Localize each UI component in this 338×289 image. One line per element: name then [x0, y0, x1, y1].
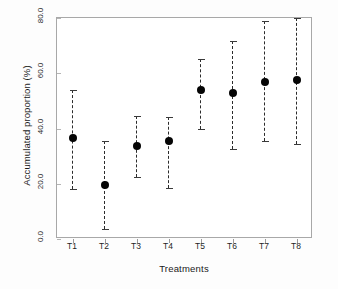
plot-inner: [57, 18, 311, 237]
y-axis-tick: [57, 184, 61, 185]
error-bar-cap-lower: [102, 229, 109, 230]
error-bar-cap-lower: [70, 189, 77, 190]
y-axis-tick-label: 40.0: [36, 109, 45, 143]
x-axis-tick-label: T1: [57, 241, 87, 251]
y-axis-tick: [57, 239, 61, 240]
x-axis-tick-label: T3: [121, 241, 151, 251]
data-point-marker: [165, 137, 173, 145]
data-point-marker: [133, 142, 141, 150]
error-bar-cap-upper: [294, 18, 301, 19]
error-bar-cap-lower: [198, 129, 205, 130]
data-point-marker: [197, 86, 205, 94]
x-axis-tick-label: T6: [217, 241, 247, 251]
x-axis-title: Treatments: [56, 263, 312, 274]
error-bar-cap-upper: [166, 117, 173, 118]
error-bar-cap-lower: [166, 188, 173, 189]
error-bar-cap-upper: [102, 141, 109, 142]
error-bar: [168, 117, 170, 187]
data-point-marker: [293, 76, 301, 84]
x-axis-tick-label: T8: [281, 241, 311, 251]
y-axis-tick-label: 0.0: [36, 220, 45, 254]
data-point-marker: [261, 78, 269, 86]
data-point-marker: [229, 89, 237, 97]
y-axis-tick-label: 60.0: [36, 54, 45, 88]
x-axis-tick-label: T7: [249, 241, 279, 251]
data-point-marker: [101, 181, 109, 189]
error-bar-cap-upper: [262, 21, 269, 22]
plot-area: [56, 17, 312, 238]
y-axis-tick: [57, 73, 61, 74]
y-axis-tick-label: 80.0: [36, 0, 45, 33]
error-bar-cap-upper: [134, 116, 141, 117]
y-axis-tick: [57, 18, 61, 19]
x-axis-tick-label: T4: [153, 241, 183, 251]
error-bar-cap-upper: [70, 90, 77, 91]
error-bar-cap-upper: [198, 59, 205, 60]
y-axis-tick: [57, 129, 61, 130]
y-axis-title: Accumulated proportion (%): [21, 36, 32, 216]
chart-figure: Accumulated proportion (%) 0.020.040.060…: [0, 0, 338, 289]
data-point-marker: [69, 134, 77, 142]
error-bar-cap-lower: [262, 141, 269, 142]
y-axis-tick-label: 20.0: [36, 164, 45, 198]
error-bar: [200, 59, 202, 128]
error-bar-cap-upper: [230, 41, 237, 42]
error-bar-cap-lower: [230, 149, 237, 150]
error-bar-cap-lower: [294, 144, 301, 145]
error-bar-cap-lower: [134, 177, 141, 178]
x-axis-tick-label: T2: [89, 241, 119, 251]
x-axis-tick-label: T5: [185, 241, 215, 251]
